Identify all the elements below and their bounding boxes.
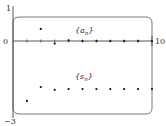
data-point [95,40,97,42]
data-point [95,88,97,90]
data-point [54,89,56,91]
data-point [123,40,125,42]
series-s-points [26,86,153,102]
data-point [151,88,153,90]
x-tick-label-right: 10 [155,37,165,46]
series-a-label: {an} [75,26,94,36]
y-tick-label-top: 1 [6,4,11,13]
data-point [81,40,83,42]
data-point [123,88,125,90]
data-point [54,42,56,44]
data-point [68,39,70,41]
data-point [137,88,139,90]
data-point [40,28,42,30]
data-point [109,88,111,90]
data-point [137,40,139,42]
y-tick-label-zero: 0 [3,37,8,46]
data-point [26,100,28,102]
data-point [40,86,42,88]
data-point [68,88,70,90]
series-s-label: {sn} [75,72,93,82]
sequence-plot: 1 0 −3 10 {an} {sn} [0,0,166,126]
y-tick-label-bottom: −3 [4,117,16,126]
data-point [109,40,111,42]
data-point [151,40,153,42]
data-point [81,88,83,90]
